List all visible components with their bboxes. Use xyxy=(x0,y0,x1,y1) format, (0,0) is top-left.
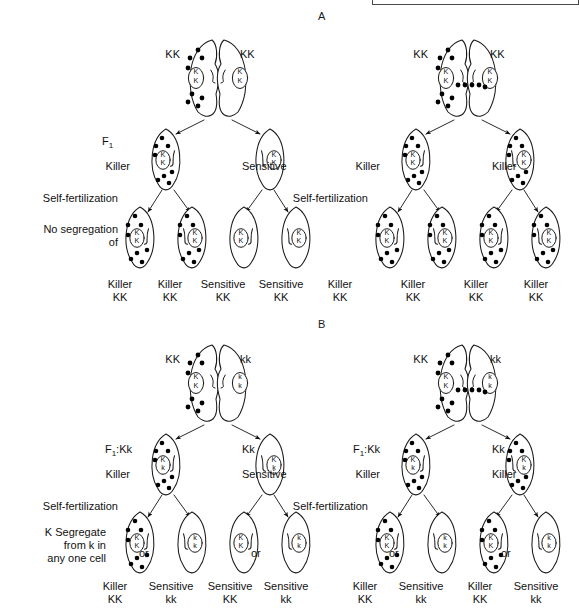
label-k-segregate-line2-b1: from k in xyxy=(6,539,106,551)
label-no-segregation-line2-a1: of xyxy=(14,236,118,248)
outcome-genotype: KK xyxy=(192,291,254,304)
outcome-genotype: kk xyxy=(140,593,202,606)
f1-genotype: :Kk xyxy=(364,443,380,455)
label-k-segregate-line1-b1: K Segregate xyxy=(6,526,106,538)
outcome-phenotype: Sensitive xyxy=(140,580,202,593)
outcome-b1-4: Sensitive kk xyxy=(255,580,317,605)
outcome-a2-3: Killer KK xyxy=(448,278,504,303)
outcome-a1-2: Killer KK xyxy=(142,278,198,303)
outcome-phenotype: Sensitive xyxy=(250,278,312,291)
svg-text:k: k xyxy=(488,372,492,381)
svg-text:K: K xyxy=(444,372,449,381)
svg-text:k: k xyxy=(522,463,526,472)
outcome-b1-3: Sensitive KK xyxy=(199,580,261,605)
outcome-genotype: KK xyxy=(385,291,441,304)
outcome-genotype: kk xyxy=(255,593,317,606)
svg-text:k: k xyxy=(297,541,301,550)
svg-text:K: K xyxy=(135,236,140,245)
outcome-phenotype: Sensitive xyxy=(199,580,261,593)
svg-text:K: K xyxy=(194,67,199,76)
outcome-a2-1: Killer KK xyxy=(312,278,368,303)
or-label-b1-2: or xyxy=(251,547,261,559)
label-f1-left-phenotype-a2: Killer xyxy=(338,160,380,172)
svg-text:K: K xyxy=(385,236,390,245)
label-parent-left-genotype-b1: KK xyxy=(152,353,180,365)
outcome-phenotype: Killer xyxy=(385,278,441,291)
outcome-a1-1: Killer KK xyxy=(92,278,148,303)
outcome-phenotype: Killer xyxy=(92,278,148,291)
label-parent-right-genotype-b2: kk xyxy=(490,353,501,365)
svg-text:k: k xyxy=(411,463,415,472)
outcome-genotype: KK xyxy=(508,291,564,304)
svg-text:k: k xyxy=(488,381,492,390)
svg-text:K: K xyxy=(194,381,199,390)
label-f1-right-genotype-b1: Kk xyxy=(242,443,255,455)
outcome-phenotype: Killer xyxy=(142,278,198,291)
outcome-a2-2: Killer KK xyxy=(385,278,441,303)
outcome-genotype: KK xyxy=(250,291,312,304)
outcome-b2-1: Killer KK xyxy=(340,580,390,605)
label-parent-left-genotype-a1: KK xyxy=(152,48,180,60)
outcome-phenotype: Killer xyxy=(312,278,368,291)
f1-text: F xyxy=(102,135,109,147)
outcome-a2-4: Killer KK xyxy=(508,278,564,303)
svg-text:K: K xyxy=(411,158,416,167)
svg-text:K: K xyxy=(239,236,244,245)
label-no-segregation-line1-a1: No segregation xyxy=(14,223,118,235)
or-label-b2-1: or xyxy=(389,547,399,559)
label-f1-left-phenotype-b1: Killer xyxy=(88,468,130,480)
label-f1-right-phenotype-b2: Killer xyxy=(492,468,516,480)
svg-text:K: K xyxy=(161,158,166,167)
svg-text:K: K xyxy=(238,76,243,85)
f1-text: F xyxy=(353,443,360,455)
label-f1-a1: F1 xyxy=(102,135,113,152)
outcome-b2-4: Sensitive kk xyxy=(505,580,567,605)
svg-text:K: K xyxy=(194,372,199,381)
label-f1-genotype-b2: F1:Kk xyxy=(318,443,380,460)
outcome-genotype: KK xyxy=(142,291,198,304)
panel-a-letter: A xyxy=(318,10,326,22)
svg-text:K: K xyxy=(522,158,527,167)
svg-text:K: K xyxy=(444,381,449,390)
outcome-a1-3: Sensitive KK xyxy=(192,278,254,303)
outcome-genotype: kk xyxy=(390,593,452,606)
label-self-fertilization-a2: Self-fertilization xyxy=(268,192,368,204)
outcome-phenotype: Killer xyxy=(449,580,511,593)
svg-text:K: K xyxy=(444,76,449,85)
label-parent-right-genotype-b1: kk xyxy=(240,353,251,365)
label-f1-left-phenotype-b2: Killer xyxy=(338,468,380,480)
svg-text:K: K xyxy=(193,236,198,245)
svg-text:k: k xyxy=(443,541,447,550)
svg-text:k: k xyxy=(193,541,197,550)
label-f1-genotype-b1: F1:Kk xyxy=(70,443,132,460)
label-parent-right-genotype-a1: KK xyxy=(240,48,255,60)
outcome-phenotype: Killer xyxy=(340,580,390,593)
outcome-genotype: KK xyxy=(448,291,504,304)
outcome-genotype: KK xyxy=(90,593,140,606)
svg-text:K: K xyxy=(547,236,552,245)
svg-text:K: K xyxy=(489,541,494,550)
outcome-b1-1: Killer KK xyxy=(90,580,140,605)
svg-text:K: K xyxy=(443,236,448,245)
outcome-phenotype: Sensitive xyxy=(505,580,567,593)
outcome-genotype: KK xyxy=(92,291,148,304)
outcome-genotype: KK xyxy=(312,291,368,304)
label-f1-right-phenotype-a2: Killer xyxy=(492,160,516,172)
label-f1-left-phenotype-a1: Killer xyxy=(88,160,130,172)
svg-text:K: K xyxy=(239,541,244,550)
outcome-b1-2: Sensitive kk xyxy=(140,580,202,605)
outcome-b2-2: Sensitive kk xyxy=(390,580,452,605)
svg-text:K: K xyxy=(297,236,302,245)
svg-text:k: k xyxy=(161,463,165,472)
outcome-phenotype: Killer xyxy=(448,278,504,291)
label-parent-left-genotype-b2: KK xyxy=(400,353,428,365)
or-label-b2-2: or xyxy=(501,547,511,559)
svg-text:K: K xyxy=(238,67,243,76)
outcome-phenotype: Sensitive xyxy=(255,580,317,593)
outcome-phenotype: Killer xyxy=(90,580,140,593)
outcome-phenotype: Killer xyxy=(508,278,564,291)
svg-text:k: k xyxy=(238,381,242,390)
svg-text:K: K xyxy=(194,76,199,85)
